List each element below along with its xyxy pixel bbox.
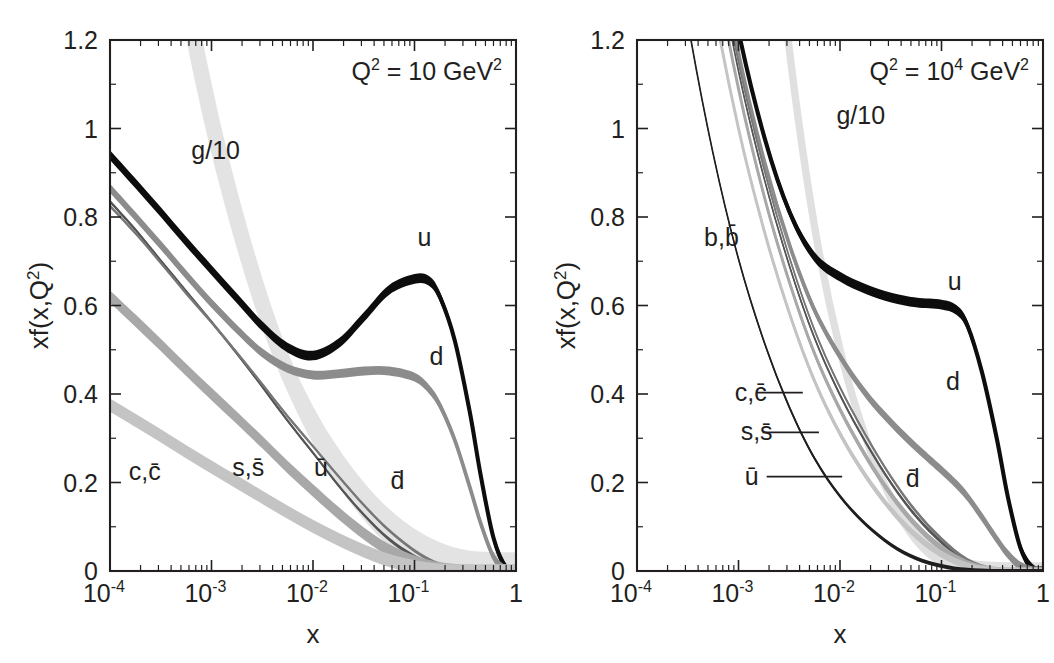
xtick-exp: -2 — [841, 578, 855, 595]
curve-label-u: u — [417, 223, 431, 251]
curve-c,cbar — [637, 0, 1043, 571]
xtick-base: 10 — [286, 579, 314, 607]
curve-label-b,bbar: b,b̄ — [704, 223, 739, 251]
y-axis-title-base: xf(x,Q — [24, 280, 54, 349]
xtick-base: 10 — [711, 579, 739, 607]
xtick-exp: -1 — [415, 578, 429, 595]
y-axis-title: xf(x,Q2) — [551, 262, 581, 349]
xtick-label: 10-4 — [83, 578, 125, 607]
panel-q2-10: 00.20.40.60.811.210-410-310-210-11xxf(x,… — [0, 0, 527, 663]
curve-g/10 — [637, 0, 1043, 571]
plot-right: 00.20.40.60.811.210-410-310-210-11xxf(x,… — [527, 0, 1054, 663]
q2-exp3: 2 — [1020, 56, 1029, 73]
xtick-label-text: 10-2 — [286, 578, 328, 607]
curve-label-d: d — [430, 342, 444, 370]
y-axis-title-tail: ) — [551, 262, 581, 271]
xtick-label-text: 10-1 — [914, 578, 956, 607]
curve-label-g/10: g/10 — [191, 136, 240, 164]
curve-dbar — [637, 0, 1043, 571]
q2-base: Q — [870, 57, 889, 85]
xtick-label-text: 1 — [1036, 579, 1050, 607]
curve-b,bbar — [637, 0, 1043, 571]
xtick-label: 10-1 — [387, 578, 429, 607]
xtick-base: 10 — [813, 579, 841, 607]
ytick-label: 0.4 — [63, 380, 98, 408]
curves-group — [110, 0, 516, 590]
curves-group — [637, 0, 1043, 580]
q2-exp2: 4 — [954, 56, 963, 73]
curve-ubar — [637, 0, 1043, 571]
curve-label-c,cbar: c,c̄ — [735, 378, 767, 406]
xtick-label-text: 10-3 — [711, 578, 753, 607]
xtick-label: 1 — [509, 579, 523, 607]
ytick-label: 0.6 — [63, 292, 98, 320]
xtick-exp: -3 — [739, 578, 753, 595]
ytick-label: 0.6 — [590, 292, 625, 320]
band-ubar — [637, 0, 1043, 573]
ytick-label: 1 — [611, 115, 625, 143]
xtick-label-text: 1 — [509, 579, 523, 607]
curve-label-dbar: d̄ — [906, 464, 920, 492]
xtick-label: 10-2 — [813, 578, 855, 607]
band-g/10 — [110, 0, 516, 590]
q2-annotation: Q2 = 104 GeV2 — [870, 56, 1030, 85]
xtick-label-text: 10-2 — [813, 578, 855, 607]
y-axis-title-tail: ) — [24, 262, 54, 271]
xtick-base: 10 — [387, 579, 415, 607]
band-u — [110, 150, 516, 576]
band-c,cbar — [637, 0, 1043, 575]
q2-exp2: 2 — [493, 56, 502, 73]
xtick-label-text: 10-1 — [387, 578, 429, 607]
plot-left: 00.20.40.60.811.210-410-310-210-11xxf(x,… — [0, 0, 527, 663]
xtick-base: 10 — [184, 579, 212, 607]
xtick-base: 10 — [610, 579, 638, 607]
curve-label-c,cbar: c,c̄ — [129, 457, 161, 485]
band-b,bbar — [637, 0, 1043, 573]
y-axis-title: xf(x,Q2) — [24, 262, 54, 349]
curve-label-d: d — [946, 367, 960, 395]
xtick-label-text: 10-4 — [610, 578, 652, 607]
ytick-label: 0.2 — [590, 469, 625, 497]
curve-label-ubar: ū — [314, 453, 328, 481]
xtick-label: 10-3 — [711, 578, 753, 607]
x-axis-title: x — [307, 619, 320, 649]
band-dbar — [637, 0, 1043, 573]
y-axis-title-group: xf(x,Q2) — [24, 262, 54, 349]
q2-base: Q — [351, 57, 370, 85]
curve-label-s,sbar: s,s̄ — [741, 417, 773, 445]
ytick-label: 0.2 — [63, 469, 98, 497]
xtick-label-text: 10-3 — [184, 578, 226, 607]
xtick-exp: -4 — [638, 578, 652, 595]
xtick-label: 10-3 — [184, 578, 226, 607]
curve-label-dbar: d̄ — [391, 466, 405, 494]
ytick-label: 1 — [84, 115, 98, 143]
panel-q2-10000: 00.20.40.60.811.210-410-310-210-11xxf(x,… — [527, 0, 1054, 663]
q2-annotation: Q2 = 10 GeV2 — [351, 56, 502, 85]
q2-exp: 2 — [889, 56, 898, 73]
curve-d — [637, 0, 1043, 571]
y-axis-title-sup: 2 — [551, 270, 570, 279]
ytick-label: 0.4 — [590, 380, 625, 408]
q2-exp: 2 — [371, 56, 380, 73]
q2-tail: GeV — [963, 57, 1020, 85]
curve-label-s,sbar: s,s̄ — [232, 453, 264, 481]
band-s,sbar — [637, 0, 1043, 575]
ytick-label: 1.2 — [63, 26, 98, 54]
y-axis-title-base: xf(x,Q — [551, 280, 581, 349]
ytick-label: 0.8 — [63, 203, 98, 231]
curve-u — [110, 155, 516, 572]
curve-label-g/10: g/10 — [836, 101, 885, 129]
y-axis-title-group: xf(x,Q2) — [551, 262, 581, 349]
xtick-label: 10-4 — [610, 578, 652, 607]
xtick-label: 10-2 — [286, 578, 328, 607]
xtick-label: 10-1 — [914, 578, 956, 607]
ytick-label: 0.8 — [590, 203, 625, 231]
xtick-exp: -3 — [212, 578, 226, 595]
band-g/10 — [637, 0, 1043, 580]
y-axis-title-sup: 2 — [24, 270, 43, 279]
band-d — [110, 184, 516, 576]
xtick-exp: -1 — [942, 578, 956, 595]
ytick-label: 1.2 — [590, 26, 625, 54]
band-u — [637, 0, 1043, 576]
band-d — [637, 0, 1043, 576]
